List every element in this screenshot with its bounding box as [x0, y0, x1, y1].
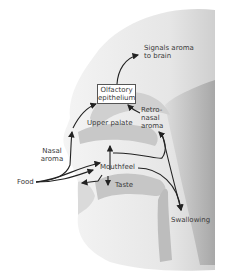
label-food: Food	[17, 178, 34, 186]
label-upper-palate: Upper palate	[87, 119, 132, 127]
label-retronasal-line3: aroma	[141, 122, 163, 130]
label-swallowing: Swallowing	[171, 216, 210, 224]
label-retronasal-line1: Retro-	[141, 106, 163, 114]
label-taste: Taste	[115, 181, 133, 189]
label-nasal-line1: Nasal	[39, 147, 65, 155]
label-signals-line2: to brain	[144, 52, 194, 60]
label-retronasal-line2: nasal	[141, 114, 163, 122]
label-nasal-line2: aroma	[39, 155, 65, 163]
label-olfactory-line1: Olfactory	[98, 86, 135, 94]
label-olfactory-epithelium: Olfactory epithelium	[98, 86, 135, 102]
label-signals-line1: Signals aroma	[144, 44, 194, 52]
label-olfactory-line2: epithelium	[98, 94, 135, 102]
flavor-diagram: Signals aroma to brain Olfactory epithel…	[0, 0, 226, 277]
label-retronasal-aroma: Retro- nasal aroma	[141, 106, 163, 130]
label-nasal-aroma: Nasal aroma	[39, 147, 65, 163]
label-mouthfeel: Mouthfeel	[100, 163, 135, 171]
label-signals-aroma: Signals aroma to brain	[144, 44, 194, 60]
head-illustration	[0, 0, 226, 277]
